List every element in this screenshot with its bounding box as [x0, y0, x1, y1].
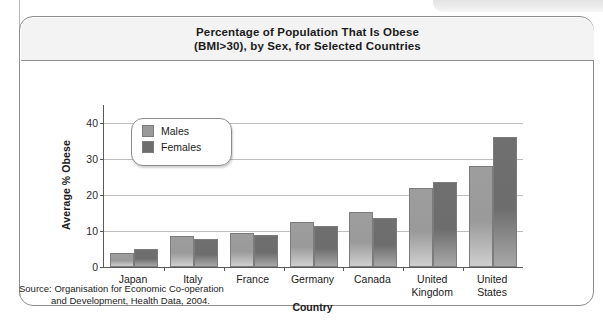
bar-males-united-states — [469, 166, 493, 267]
x-axis-tickmark — [224, 267, 225, 271]
y-axis-tick-label: 0 — [92, 261, 98, 273]
page-root: Percentage of Population That Is Obese (… — [0, 0, 603, 331]
bar-females-france — [254, 235, 278, 267]
x-axis-label-united-states: UnitedStates — [462, 273, 522, 301]
bar-males-canada — [349, 212, 373, 267]
bar-females-united-kingdom — [433, 182, 457, 267]
chart-legend: Males Females — [131, 118, 232, 166]
bar-group — [224, 105, 284, 267]
page-decoration-band — [433, 0, 603, 12]
chart-title-line-2: (BMI>30), by Sex, for Selected Countries — [194, 39, 421, 53]
y-axis-title: Average % Obese — [60, 125, 72, 245]
legend-swatch-females-icon — [142, 141, 154, 153]
x-axis-tickmark — [403, 267, 404, 271]
bar-females-germany — [314, 226, 338, 267]
x-axis-label-united-kingdom: UnitedKingdom — [402, 273, 462, 301]
x-axis-label-canada: Canada — [342, 273, 402, 301]
chart-figure: Percentage of Population That Is Obese (… — [19, 16, 594, 306]
chart-title-line-1: Percentage of Population That Is Obese — [196, 25, 419, 39]
chart-title-band: Percentage of Population That Is Obese (… — [21, 18, 594, 61]
x-axis-tickmark — [343, 267, 344, 271]
legend-swatch-males-icon — [142, 125, 154, 137]
source-line-2: and Development, Health Data, 2004. — [19, 295, 339, 307]
y-axis-tickmark — [100, 267, 104, 268]
x-axis-tickmark — [463, 267, 464, 271]
bar-females-japan — [134, 249, 158, 267]
bar-group — [284, 105, 344, 267]
bar-females-italy — [194, 239, 218, 267]
source-line-1: Source: Organisation for Economic Co-ope… — [19, 283, 224, 294]
y-axis-tick-label: 30 — [86, 153, 98, 165]
y-axis-tick-label: 40 — [86, 117, 98, 129]
source-note: Source: Organisation for Economic Co-ope… — [19, 283, 339, 307]
legend-item-males: Males — [142, 125, 231, 137]
bar-females-united-states — [493, 137, 517, 267]
bar-group — [403, 105, 463, 267]
bar-females-canada — [373, 218, 397, 267]
chart-body: Average % Obese 010203040 JapanItalyFran… — [20, 61, 593, 306]
bar-males-japan — [110, 253, 134, 267]
y-axis-tick-label: 10 — [86, 225, 98, 237]
y-axis-tick-label: 20 — [86, 189, 98, 201]
bar-group — [463, 105, 523, 267]
legend-item-females: Females — [142, 141, 231, 153]
x-axis-tickmark — [284, 267, 285, 271]
bar-males-germany — [290, 222, 314, 267]
bar-males-italy — [170, 236, 194, 267]
bar-males-united-kingdom — [409, 188, 433, 267]
legend-label-males: Males — [161, 125, 189, 137]
legend-label-females: Females — [161, 141, 201, 153]
bar-males-france — [230, 233, 254, 267]
bar-group — [343, 105, 403, 267]
x-axis-tickmark — [164, 267, 165, 271]
